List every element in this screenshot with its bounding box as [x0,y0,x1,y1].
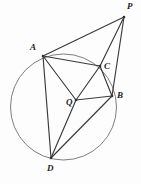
point-label-b: B [117,91,123,100]
vertex-point-p [123,16,126,19]
segment-A-D [43,56,51,158]
vertex-point-a [42,55,45,58]
vertex-point-q [75,99,78,102]
segment-Q-B [76,96,112,100]
point-label-d: D [47,164,54,173]
segment-C-Q [76,66,100,100]
segment-A-C [43,56,100,66]
vertex-point-b [111,95,114,98]
point-label-p: P [127,2,133,11]
segment-D-B [51,96,112,158]
segment-A-P [43,17,124,56]
vertex-point-c [99,65,102,68]
segment-Q-D [51,100,76,158]
vertex-point-d [50,157,53,160]
segment-A-Q [43,56,76,100]
segments-group [43,17,124,158]
geometry-diagram: PACBQD [0,0,141,184]
point-label-q: Q [66,98,73,107]
point-label-c: C [104,62,110,71]
point-label-a: A [30,43,36,52]
